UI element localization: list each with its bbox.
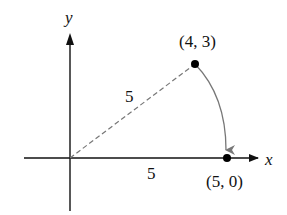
point-5-0	[223, 154, 231, 162]
coordinate-diagram: y x (4, 3) (5, 0) 5 5	[0, 0, 287, 215]
y-axis-label: y	[63, 8, 73, 27]
point-label-5-0: (5, 0)	[206, 172, 243, 191]
radius-label: 5	[125, 87, 134, 106]
radius-dashed-line	[70, 64, 195, 158]
point-label-4-3: (4, 3)	[179, 32, 216, 51]
x-axis-label: x	[264, 150, 273, 169]
x-length-label: 5	[147, 164, 156, 183]
point-4-3	[191, 60, 199, 68]
rotation-arc	[195, 64, 226, 150]
y-axis-arrowhead	[66, 33, 74, 45]
